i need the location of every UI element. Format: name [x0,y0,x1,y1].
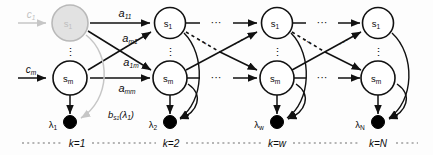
transition-label-am1: am1 [122,32,138,44]
transition-label-amm: amm [118,82,136,94]
ellipsis-top-kw-kN: ··· [317,16,328,28]
ellipsis-top-k2-kw: ··· [211,16,222,28]
time-label-kN: k=N [369,138,388,149]
state-node-kw-s1[interactable]: s1 [262,8,293,39]
transition-label-a11: a11 [119,7,132,19]
state-node-k1-sm[interactable]: sm [53,61,87,95]
ellipsis-diag-lower-k2: ··· [230,33,246,49]
state-node-kN-sm[interactable]: sm [361,61,395,95]
observation-node-kw[interactable] [271,116,284,129]
vertical-dots-kN: ⋮ [373,46,384,58]
time-label-k1: k=1 [69,138,85,149]
trellis-diagram: ··· ··· ··· ··· ··· ··· ··· ··· [0,0,433,155]
time-label-k2: k=2 [163,138,180,149]
observation-node-k1[interactable] [64,116,77,129]
state-node-kN-s1[interactable]: s1 [363,8,394,39]
vertical-dots-k1: ⋮ [65,46,76,58]
observation-label-lambdaN: λN [355,119,365,131]
observation-label-lambda1: λ1 [49,119,58,131]
ellipsis-diag-lower-kw: ··· [335,33,351,49]
state-node-k2-sm[interactable]: sm [153,61,187,95]
state-node-k2-s1[interactable]: s1 [155,8,186,39]
observation-node-k2[interactable] [164,116,177,129]
figure-canvas: ··· ··· ··· ··· ··· ··· ··· ··· [0,0,433,155]
observation-node-kN[interactable] [372,116,385,129]
emission-label-bs1: bs1(λ1) [108,109,134,121]
ellipsis-bottom-k2-kw: ··· [211,71,222,83]
vertical-dots-kw: ⋮ [272,46,283,58]
ellipsis-bottom-kw-kN: ··· [317,71,328,83]
observation-label-lambdaw: λw [254,119,264,131]
ellipsis-diag-upper-kw: ··· [300,33,316,49]
vertical-dots-k2: ⋮ [165,46,176,58]
input-label-cm: cm [26,64,37,76]
observation-label-lambda2: λ2 [149,119,158,131]
state-node-kw-sm[interactable]: sm [260,61,294,95]
time-label-kw: k=w [268,138,287,149]
input-label-c1: c1 [27,9,36,21]
ellipsis-diag-upper-k2: ··· [195,33,211,49]
state-node-k1-s1[interactable]: s1 [52,5,88,41]
